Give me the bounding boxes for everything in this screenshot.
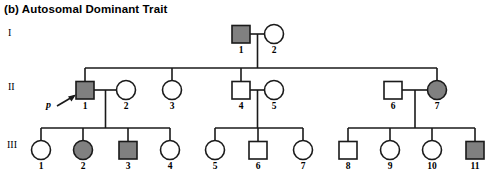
descent-lines-mating-II-6: [348, 90, 475, 141]
symbol-II-5[interactable]: [265, 81, 284, 100]
descent-lines-gen-I-to-II: [85, 34, 437, 81]
mating-lines: [94, 34, 428, 90]
individual-number-III-4: 4: [157, 161, 183, 171]
symbol-II-4[interactable]: [232, 82, 250, 100]
pedigree-figure: (b) Autosomal Dominant Trait I II III: [0, 0, 498, 178]
female-symbol-unaffected[interactable]: [265, 25, 284, 44]
individual-number-III-7: 7: [290, 161, 316, 171]
pedigree-diagram: [0, 0, 498, 178]
symbol-III-3[interactable]: [119, 142, 137, 160]
male-symbol-unaffected[interactable]: [249, 142, 267, 160]
symbol-I-2[interactable]: [265, 25, 284, 44]
symbol-III-9[interactable]: [381, 141, 400, 160]
symbol-II-1[interactable]: [76, 82, 94, 100]
male-symbol-affected[interactable]: [232, 26, 250, 44]
male-symbol-unaffected[interactable]: [339, 142, 357, 160]
proband-label: p: [46, 99, 51, 110]
symbol-III-11[interactable]: [466, 142, 484, 160]
individual-number-II-2: 2: [113, 101, 139, 111]
individual-number-III-9: 9: [377, 161, 403, 171]
individual-number-III-10: 10: [419, 161, 445, 171]
female-symbol-unaffected[interactable]: [294, 141, 313, 160]
individual-number-III-3: 3: [115, 161, 141, 171]
symbol-II-2[interactable]: [117, 81, 136, 100]
individual-number-III-1: 1: [28, 161, 54, 171]
female-symbol-unaffected[interactable]: [32, 141, 51, 160]
male-symbol-affected[interactable]: [119, 142, 137, 160]
individual-number-III-2: 2: [70, 161, 96, 171]
female-symbol-unaffected[interactable]: [117, 81, 136, 100]
individual-number-III-8: 8: [335, 161, 361, 171]
female-symbol-unaffected[interactable]: [161, 141, 180, 160]
female-symbol-unaffected[interactable]: [163, 81, 182, 100]
symbol-III-7[interactable]: [294, 141, 313, 160]
male-symbol-affected-proband[interactable]: [76, 82, 94, 100]
symbol-III-6[interactable]: [249, 142, 267, 160]
symbol-II-7[interactable]: [428, 81, 447, 100]
female-symbol-unaffected[interactable]: [265, 81, 284, 100]
symbol-III-2[interactable]: [74, 141, 93, 160]
individual-number-I-2: 2: [261, 45, 287, 55]
descent-lines-mating-II-1: [41, 90, 170, 141]
descent-lines-mating-II-4: [215, 90, 303, 141]
male-symbol-affected[interactable]: [466, 142, 484, 160]
individual-number-II-7: 7: [424, 101, 450, 111]
symbol-III-8[interactable]: [339, 142, 357, 160]
symbol-III-10[interactable]: [423, 141, 442, 160]
symbol-II-3[interactable]: [163, 81, 182, 100]
female-symbol-affected[interactable]: [74, 141, 93, 160]
symbol-II-6[interactable]: [384, 82, 402, 100]
individual-number-I-1: 1: [228, 45, 254, 55]
male-symbol-unaffected[interactable]: [232, 82, 250, 100]
individual-number-II-1: 1: [72, 101, 98, 111]
individual-number-III-11: 11: [462, 161, 488, 171]
individual-number-II-3: 3: [159, 101, 185, 111]
female-symbol-unaffected[interactable]: [381, 141, 400, 160]
female-symbol-affected[interactable]: [428, 81, 447, 100]
symbol-III-5[interactable]: [206, 141, 225, 160]
symbol-III-1[interactable]: [32, 141, 51, 160]
individual-number-III-6: 6: [245, 161, 271, 171]
female-symbol-unaffected[interactable]: [206, 141, 225, 160]
individual-number-II-5: 5: [261, 101, 287, 111]
individual-number-III-5: 5: [202, 161, 228, 171]
male-symbol-unaffected[interactable]: [384, 82, 402, 100]
female-symbol-unaffected[interactable]: [423, 141, 442, 160]
individual-number-II-4: 4: [228, 101, 254, 111]
symbol-I-1[interactable]: [232, 26, 250, 44]
individual-number-II-6: 6: [380, 101, 406, 111]
symbol-III-4[interactable]: [161, 141, 180, 160]
